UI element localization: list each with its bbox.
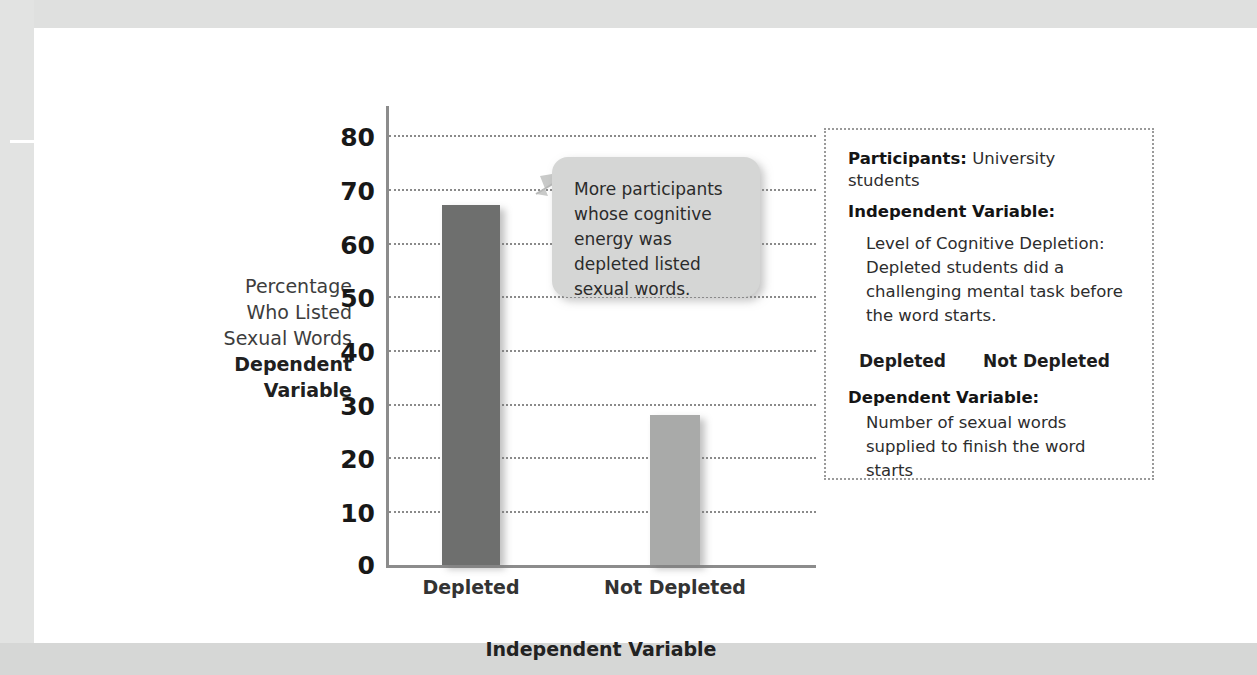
y-tick-label-0: 0 [358, 551, 375, 580]
independent-variable-heading: Independent Variable: [848, 201, 1132, 223]
dependent-variable-heading: Dependent Variable: [848, 388, 1132, 407]
chart-legend: Depleted Not Depleted [848, 350, 1132, 372]
y-tick-label-10: 10 [340, 499, 375, 528]
bar-depleted[interactable] [442, 205, 500, 565]
scanned-page-canvas: Percentage Who Listed Sexual Words Depen… [0, 0, 1257, 675]
participants-key: Participants: [848, 149, 967, 168]
x-axis-line [386, 565, 816, 568]
y-tick-label-80: 80 [340, 123, 375, 152]
y-axis-title-regular: Percentage Who Listed Sexual Words [212, 273, 352, 351]
participants-line: Participants: University students [848, 148, 1132, 192]
y-tick-label-60: 60 [340, 231, 375, 260]
scan-edge-top [0, 0, 1257, 28]
independent-variable-heading-text: Independent Variable: [848, 202, 1055, 221]
y-tick-label-70: 70 [340, 177, 375, 206]
y-axis-title: Percentage Who Listed Sexual Words Depen… [212, 273, 352, 403]
callout-bubble: More participants whose cognitive energy… [552, 157, 760, 297]
study-info-box: Participants: University students Indepe… [824, 128, 1154, 480]
x-tick-label-depleted: Depleted [422, 576, 519, 598]
gridline-80: 80 [389, 135, 816, 137]
y-tick-label-40: 40 [340, 338, 375, 367]
page-sheet: Percentage Who Listed Sexual Words Depen… [34, 28, 1257, 643]
y-axis-line [386, 106, 389, 568]
x-axis-title: Independent Variable [486, 638, 717, 660]
legend-label-not-depleted: Not Depleted [983, 351, 1110, 371]
y-tick-label-50: 50 [340, 284, 375, 313]
y-tick-label-20: 20 [340, 445, 375, 474]
y-axis-title-bold: Dependent Variable [212, 351, 352, 403]
independent-variable-body: Level of Cognitive Depletion: Depleted s… [866, 232, 1132, 328]
bar-not-depleted[interactable] [650, 415, 700, 566]
dependent-variable-body: Number of sexual words supplied to finis… [866, 411, 1132, 483]
callout-text: More participants whose cognitive energy… [574, 177, 749, 302]
scan-edge-left [0, 0, 34, 675]
y-tick-label-30: 30 [340, 392, 375, 421]
x-tick-label-not-depleted: Not Depleted [604, 576, 746, 598]
legend-label-depleted: Depleted [859, 351, 946, 371]
